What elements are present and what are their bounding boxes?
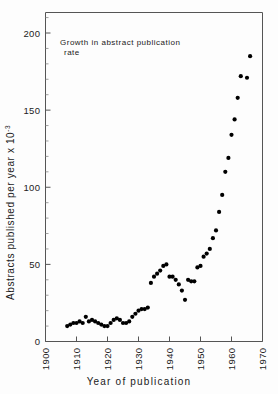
data-point xyxy=(174,278,178,282)
data-point xyxy=(202,255,206,259)
data-point xyxy=(177,282,181,286)
data-point xyxy=(248,54,252,58)
data-point xyxy=(127,319,131,323)
x-tick-label: 1970 xyxy=(257,348,268,371)
data-point xyxy=(223,170,227,174)
x-tick-label: 1900 xyxy=(40,348,51,371)
data-point xyxy=(214,228,218,232)
data-point xyxy=(220,193,224,197)
data-point xyxy=(109,321,113,325)
scatter-chart: 050100150200 190019101920193019401950196… xyxy=(0,0,278,394)
x-tick-label: 1940 xyxy=(164,348,175,371)
data-point xyxy=(180,289,184,293)
y-tick-label: 150 xyxy=(23,105,40,116)
y-tick-label: 200 xyxy=(23,28,40,39)
x-tick-label: 1920 xyxy=(102,348,113,371)
chart-annotation: Growth in abstract publication rate xyxy=(60,38,180,57)
data-point xyxy=(192,279,196,283)
data-point xyxy=(146,305,150,309)
data-point xyxy=(233,117,237,121)
data-points-layer xyxy=(65,54,252,328)
data-point xyxy=(164,262,168,266)
data-point xyxy=(236,96,240,100)
y-axis-ticks xyxy=(46,18,51,342)
data-point xyxy=(118,318,122,322)
data-point xyxy=(205,251,209,255)
y-tick-label: 0 xyxy=(35,336,41,347)
data-point xyxy=(158,268,162,272)
x-tick-label: 1950 xyxy=(195,348,206,371)
y-axis-title-text: Abstracts published per year x 10 xyxy=(5,132,16,300)
data-point xyxy=(226,156,230,160)
data-point xyxy=(105,324,109,328)
data-point xyxy=(81,321,85,325)
plot-frame xyxy=(46,13,263,342)
data-point xyxy=(198,264,202,268)
data-point xyxy=(211,236,215,240)
data-point xyxy=(130,315,134,319)
x-tick-label: 1910 xyxy=(71,348,82,371)
x-axis-title: Year of publication xyxy=(87,376,192,387)
y-axis-tick-labels: 050100150200 xyxy=(23,28,40,348)
data-point xyxy=(149,281,153,285)
data-point xyxy=(183,298,187,302)
x-axis-tick-labels: 19001910192019301940195019601970 xyxy=(40,348,268,371)
annotation-line-2: rate xyxy=(64,48,80,57)
y-axis-title-exponent: -3 xyxy=(4,125,11,132)
annotation-line-1: Growth in abstract publication xyxy=(60,38,180,47)
data-point xyxy=(239,74,243,78)
data-point xyxy=(229,133,233,137)
y-tick-label: 50 xyxy=(29,259,40,270)
data-point xyxy=(152,275,156,279)
y-tick-label: 100 xyxy=(23,182,40,193)
x-tick-label: 1930 xyxy=(133,348,144,371)
figure-container: 050100150200 190019101920193019401950196… xyxy=(0,0,278,394)
data-point xyxy=(217,210,221,214)
x-tick-label: 1960 xyxy=(226,348,237,371)
svg-text:Abstracts published per year x: Abstracts published per year x 10-3 xyxy=(4,125,16,300)
data-point xyxy=(208,247,212,251)
x-axis-ticks xyxy=(46,337,263,342)
data-point xyxy=(84,315,88,319)
data-point xyxy=(155,272,159,276)
data-point xyxy=(245,76,249,80)
data-point xyxy=(133,312,137,316)
data-point xyxy=(171,275,175,279)
y-axis-title: Abstracts published per year x 10-3 xyxy=(4,125,16,300)
